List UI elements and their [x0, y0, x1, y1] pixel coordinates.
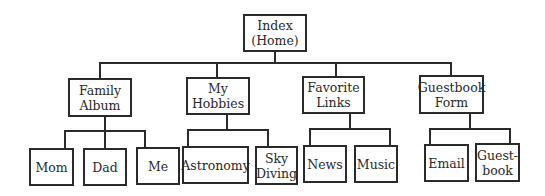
node-label: Dad [92, 160, 117, 175]
node-index-home: Index(Home) [243, 14, 307, 52]
node-favorite-links: FavoriteLinks [302, 76, 365, 114]
connector [309, 128, 391, 130]
node-label: Me [148, 159, 168, 174]
node-guestbook-form: GuestbookForm [419, 75, 484, 114]
node-label: Favorite [307, 80, 359, 95]
node-label: My [192, 81, 244, 96]
connector [104, 116, 106, 131]
node-label: Hobbies [192, 96, 244, 111]
node-label: Mom [35, 160, 67, 175]
node-label: Index [251, 18, 298, 33]
node-me: Me [136, 147, 180, 185]
node-label: Music [357, 157, 395, 172]
node-label: Guestbook [418, 80, 486, 95]
site-map-diagram: Index(Home) FamilyAlbum MyHobbies Favori… [0, 0, 545, 196]
connector [349, 113, 351, 129]
connector [309, 128, 311, 146]
node-email: Email [424, 144, 469, 182]
node-astronomy: Astronomy [182, 146, 249, 184]
node-label: Form [418, 95, 486, 110]
node-label: Album [79, 98, 121, 113]
connector [144, 130, 146, 148]
node-label: Links [307, 95, 359, 110]
connector [104, 130, 106, 148]
node-label: Email [428, 156, 464, 171]
node-label: Guest- [477, 148, 518, 163]
node-my-hobbies: MyHobbies [186, 77, 250, 115]
connector [64, 130, 66, 148]
connector [99, 62, 452, 64]
node-label: (Home) [251, 33, 298, 48]
connector [389, 128, 391, 146]
node-label: Astronomy [181, 158, 249, 173]
node-label: Diving [256, 166, 297, 181]
node-label: Family [79, 83, 121, 98]
node-sky-diving: SkyDiving [255, 146, 298, 185]
connector [469, 113, 471, 129]
node-guestbook: Guest-book [475, 143, 520, 182]
connector [187, 129, 189, 147]
node-label: book [477, 163, 518, 178]
connector [226, 114, 228, 130]
node-label: Sky [256, 151, 297, 166]
connector [187, 129, 269, 131]
node-dad: Dad [83, 148, 127, 186]
node-music: Music [354, 145, 398, 183]
node-label: News [307, 157, 342, 172]
connector [216, 62, 218, 77]
connector [99, 62, 101, 78]
node-mom: Mom [29, 148, 74, 186]
node-news: News [303, 145, 347, 183]
connector [335, 62, 337, 77]
connector [267, 129, 269, 147]
connector [429, 128, 511, 130]
node-family-album: FamilyAlbum [68, 78, 132, 117]
